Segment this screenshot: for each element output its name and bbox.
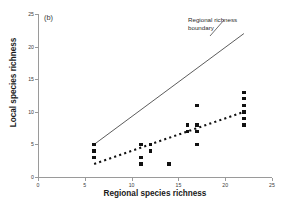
data-point xyxy=(139,162,142,165)
data-point xyxy=(195,104,198,107)
data-point xyxy=(186,123,189,126)
y-tick-label: 20 xyxy=(22,44,34,50)
x-tick-mark xyxy=(38,178,39,181)
y-tick-label: 25 xyxy=(22,11,34,17)
x-tick-label: 10 xyxy=(125,182,139,188)
data-point xyxy=(195,130,198,133)
y-axis-title: Local species richness xyxy=(9,1,18,164)
x-tick-mark xyxy=(272,178,273,181)
x-tick-mark xyxy=(178,178,179,181)
data-point xyxy=(92,143,95,146)
data-point xyxy=(139,143,142,146)
y-tick-label: 0 xyxy=(22,174,34,180)
x-tick-label: 20 xyxy=(218,182,232,188)
data-point xyxy=(167,162,170,165)
x-tick-mark xyxy=(132,178,133,181)
y-tick-label: 15 xyxy=(22,76,34,82)
x-tick-mark xyxy=(85,178,86,181)
data-point xyxy=(242,123,245,126)
y-tick-label: 10 xyxy=(22,109,34,115)
data-point xyxy=(242,91,245,94)
figure-panel-b: (b) Regional richness boundary 051015202… xyxy=(0,0,283,212)
x-axis-line xyxy=(38,177,272,178)
data-point xyxy=(242,117,245,120)
x-tick-label: 5 xyxy=(78,182,92,188)
x-tick-mark xyxy=(225,178,226,181)
data-point xyxy=(242,110,245,113)
y-tick-label: 5 xyxy=(22,141,34,147)
data-point xyxy=(92,149,95,152)
x-tick-label: 15 xyxy=(171,182,185,188)
data-point xyxy=(92,156,95,159)
x-axis-title: Regional species richness xyxy=(38,189,272,198)
x-tick-label: 25 xyxy=(265,182,279,188)
data-point xyxy=(242,97,245,100)
data-point xyxy=(149,143,152,146)
data-point xyxy=(139,156,142,159)
x-tick-label: 0 xyxy=(31,182,45,188)
annotation-leader-line xyxy=(210,20,224,36)
plot-area: 0510152025 0510152025 xyxy=(38,14,272,177)
data-point xyxy=(186,130,189,133)
data-point xyxy=(149,149,152,152)
trend-line xyxy=(94,34,244,145)
trend-lines xyxy=(38,14,272,177)
trend-line xyxy=(94,112,244,164)
data-point xyxy=(195,123,198,126)
data-point xyxy=(242,104,245,107)
data-point xyxy=(195,143,198,146)
